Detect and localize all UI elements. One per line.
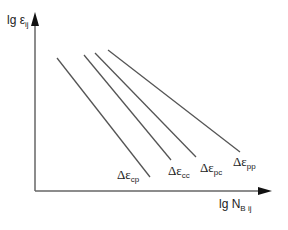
curve-label-cc: Δεcc — [168, 164, 190, 180]
curve-label-sub: pp — [247, 162, 256, 171]
y-axis-arrow-icon — [31, 12, 39, 26]
y-axis-label-sub: ij — [25, 20, 29, 29]
curve-pp — [108, 50, 240, 152]
y-axis-label: lg εij — [7, 14, 29, 29]
y-axis-label-main: lg ε — [7, 13, 25, 27]
x-axis-label-main: lg N — [219, 197, 240, 211]
curve-label-main: Δε — [117, 167, 131, 182]
curve-pc — [95, 53, 196, 157]
curve-label-cp: Δεcp — [117, 168, 139, 184]
curve-label-sub: pc — [214, 168, 222, 177]
curve-label-pp: Δεpp — [233, 155, 256, 171]
curve-label-sub: cc — [182, 171, 190, 180]
x-axis-label-sub: B ij — [240, 204, 251, 213]
curve-label-main: Δε — [200, 160, 214, 175]
diagram-canvas — [0, 0, 288, 230]
curve-label-pc: Δεpc — [200, 161, 222, 177]
curve-label-main: Δε — [233, 154, 247, 169]
x-axis-arrow-icon — [258, 187, 272, 195]
x-axis-label: lg NB ij — [219, 198, 251, 213]
curve-cc — [84, 55, 171, 160]
curve-label-sub: cp — [131, 175, 139, 184]
curve-label-main: Δε — [168, 163, 182, 178]
